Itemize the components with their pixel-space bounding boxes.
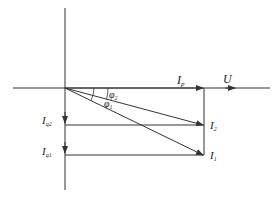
svg-text:I1: I1 bbox=[209, 149, 217, 162]
phasor-diagram: Ip U φ2 φ1 Iq2 Iq1 I2 I1 bbox=[0, 0, 276, 197]
svg-text:Iq2: Iq2 bbox=[41, 114, 52, 127]
i2-phasor bbox=[65, 88, 203, 125]
svg-text:Ip: Ip bbox=[176, 73, 185, 88]
label-i2-sub: 2 bbox=[214, 126, 217, 132]
label-iq1-sub: q1 bbox=[46, 152, 52, 158]
label-ip-sub: p bbox=[180, 80, 185, 88]
svg-text:Iq1: Iq1 bbox=[41, 145, 52, 158]
label-u: U bbox=[223, 72, 233, 86]
label-phi2-sub: 2 bbox=[115, 95, 118, 101]
label-iq2-sub: q2 bbox=[46, 121, 52, 127]
svg-text:φ2: φ2 bbox=[109, 89, 118, 101]
i1-phasor bbox=[65, 88, 203, 155]
svg-text:I2: I2 bbox=[209, 119, 217, 132]
angle-arc-phi1 bbox=[91, 88, 94, 101]
label-i1-sub: 1 bbox=[214, 156, 217, 162]
label-phi1-sub: 1 bbox=[110, 104, 113, 110]
